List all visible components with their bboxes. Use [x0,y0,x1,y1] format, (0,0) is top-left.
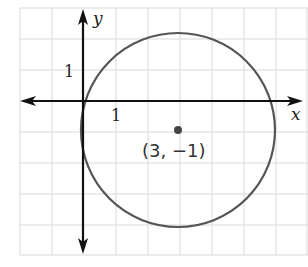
x-axis-label: x [291,104,301,124]
coordinate-plane: y x 1 1 (3, −1) [0,0,308,267]
y-axis-label: y [92,8,103,28]
center-point-label: (3, −1) [142,140,205,161]
grid [20,8,308,255]
center-point [174,126,182,134]
y-tick-label: 1 [64,62,74,81]
x-tick-label: 1 [111,106,121,125]
